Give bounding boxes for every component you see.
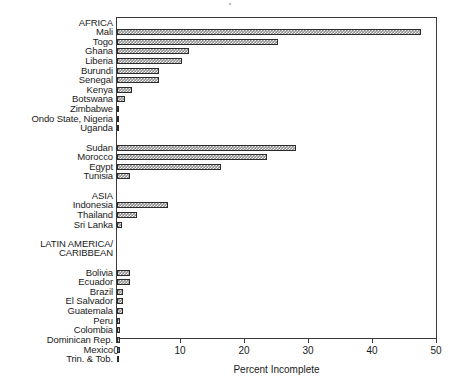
bar-ecuador (117, 279, 130, 285)
bar-colombia (117, 327, 120, 333)
bar-uganda (117, 125, 119, 131)
bar-sri-lanka (117, 222, 122, 228)
bar-peru (117, 318, 120, 324)
x-axis-title: Percent Incomplete (116, 364, 437, 375)
bar-el-salvador (117, 298, 123, 304)
category-label-caribbean: CARIBBEAN (0, 248, 113, 258)
bar-trin-tob (117, 356, 119, 362)
category-label-sri-lanka: Sri Lanka (0, 220, 113, 230)
bar-bolivia (117, 270, 130, 276)
bar-guatemala (117, 308, 123, 314)
bar-dominican-rep (117, 337, 120, 343)
bar-sudan (117, 145, 296, 151)
bar-brazil (117, 289, 123, 295)
x-tick-mark-40 (372, 339, 373, 343)
bar-ghana (117, 48, 189, 54)
x-tick-mark-50 (436, 339, 437, 343)
bar-thailand (117, 212, 137, 218)
bar-mali (117, 29, 421, 35)
percent-incomplete-bar-chart: AFRICAMaliTogoGhanaLiberiaBurundiSenegal… (0, 0, 458, 385)
category-label-trin-tob: Trin. & Tob. (0, 354, 113, 364)
scan-artifact-speck (229, 3, 231, 5)
x-tick-label-20: 20 (229, 345, 259, 356)
x-tick-label-30: 30 (293, 345, 323, 356)
category-label-uganda: Uganda (0, 123, 113, 133)
x-tick-mark-30 (308, 339, 309, 343)
x-tick-mark-10 (180, 339, 181, 343)
x-tick-label-40: 40 (357, 345, 387, 356)
x-tick-label-10: 10 (165, 345, 195, 356)
x-tick-label-50: 50 (421, 345, 451, 356)
bar-liberia (117, 58, 182, 64)
category-label-tunisia: Tunisia (0, 171, 113, 181)
bar-kenya (117, 87, 132, 93)
bar-botswana (117, 96, 125, 102)
bars-layer (117, 18, 437, 338)
category-label-column: AFRICAMaliTogoGhanaLiberiaBurundiSenegal… (0, 17, 113, 339)
category-label-thailand: Thailand (0, 210, 113, 220)
bar-ondo-state-nigeria (117, 116, 119, 122)
bar-togo (117, 39, 278, 45)
x-tick-mark-20 (244, 339, 245, 343)
bar-burundi (117, 68, 159, 74)
bar-zimbabwe (117, 106, 119, 112)
bar-morocco (117, 154, 267, 160)
bar-senegal (117, 77, 159, 83)
bar-mexico (117, 347, 120, 353)
bar-indonesia (117, 202, 168, 208)
bar-egypt (117, 164, 221, 170)
bar-tunisia (117, 173, 130, 179)
